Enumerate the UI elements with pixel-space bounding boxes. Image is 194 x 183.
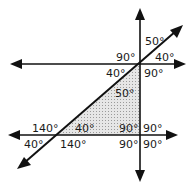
- angle-label: 90°: [116, 51, 136, 64]
- angle-label: 140°: [60, 138, 87, 151]
- angle-label: 40°: [155, 51, 175, 64]
- angle-label: 90°: [143, 138, 163, 151]
- angle-label: 90°: [144, 67, 164, 80]
- angle-label: 90°: [143, 122, 163, 135]
- diagram-canvas: 50° 40° 90° 40° 90° 50° 140° 40° 40° 140…: [0, 0, 194, 183]
- angle-label: 90°: [119, 122, 139, 135]
- geometry-diagram: 50° 40° 90° 40° 90° 50° 140° 40° 40° 140…: [0, 0, 194, 183]
- angle-label: 40°: [75, 122, 95, 135]
- angle-label: 140°: [32, 122, 59, 135]
- angle-label: 40°: [106, 67, 126, 80]
- angle-label: 50°: [115, 87, 135, 100]
- angle-label: 40°: [24, 138, 44, 151]
- angle-label: 50°: [145, 35, 165, 48]
- angle-label: 90°: [119, 138, 139, 151]
